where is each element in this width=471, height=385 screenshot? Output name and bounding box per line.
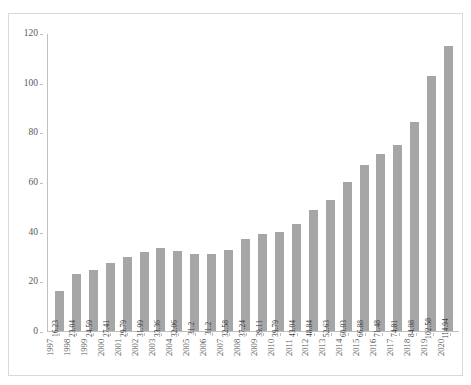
- x-axis-tick-label: 2009: [250, 339, 259, 356]
- bar[interactable]: 31.2: [190, 254, 199, 331]
- bar-slot: 84.08: [406, 34, 423, 331]
- x-axis-tick-label: 2006: [199, 339, 208, 356]
- bar[interactable]: 52.63: [326, 200, 335, 331]
- y-axis-tick-label: 60: [8, 178, 38, 188]
- x-axis-tick-label: 2005: [182, 339, 191, 356]
- x-axis-tick-label: 2010: [267, 339, 276, 356]
- x-axis-tick-mark: [263, 333, 264, 336]
- x-axis-tick-mark: [93, 333, 94, 336]
- x-axis-tick-mark: [76, 333, 77, 336]
- y-axis-tick-mark: [40, 332, 43, 333]
- bar-slot: 31.2: [186, 34, 203, 331]
- x-axis-tick-label: 2020: [437, 339, 446, 356]
- x-axis-tick-mark: [433, 333, 434, 336]
- x-axis-tick-mark: [127, 333, 128, 336]
- x-axis-tick-mark: [178, 333, 179, 336]
- bar[interactable]: 60.03: [343, 182, 352, 331]
- x-axis-tick-label: 2002: [131, 339, 140, 356]
- y-axis-tick-label: 100: [8, 79, 38, 89]
- x-axis-tick-label: 2001: [114, 339, 123, 356]
- bar[interactable]: 31.99: [140, 252, 149, 331]
- bar[interactable]: 102.58: [427, 76, 436, 331]
- y-axis-tick-mark: [40, 34, 43, 35]
- bar[interactable]: 31.2: [207, 254, 216, 331]
- x-axis-tick-label: 1999: [80, 339, 89, 356]
- x-axis-tick-mark: [382, 333, 383, 336]
- bar-slot: 71.48: [373, 34, 390, 331]
- bar[interactable]: 37.24: [241, 239, 250, 331]
- bar[interactable]: 48.84: [309, 210, 318, 331]
- bar[interactable]: 39.11: [258, 234, 267, 331]
- bar-slot: 32.06: [169, 34, 186, 331]
- x-axis-tick-label: 2004: [165, 339, 174, 356]
- bar[interactable]: 84.08: [410, 122, 419, 331]
- y-axis-tick-label: 20: [8, 278, 38, 288]
- bar[interactable]: 16.23: [55, 291, 64, 331]
- bar[interactable]: 24.59: [89, 270, 98, 331]
- x-axis-tick-label: 2011: [284, 339, 293, 356]
- bar[interactable]: 32.06: [173, 251, 182, 331]
- bar[interactable]: 74.81: [393, 145, 402, 331]
- y-axis-tick-mark: [40, 233, 43, 234]
- x-axis-tick-label: 2000: [97, 339, 106, 356]
- bar[interactable]: 32.58: [224, 250, 233, 331]
- bar-slot: 33.36: [153, 34, 170, 331]
- x-axis-tick-label: 2015: [352, 339, 361, 356]
- bar[interactable]: 39.79: [275, 232, 284, 331]
- bar-slot: 23.04: [68, 34, 85, 331]
- x-axis-tick-label: 2014: [335, 339, 344, 356]
- bar[interactable]: 29.79: [123, 257, 132, 331]
- x-axis-tick-label: 1998: [63, 339, 72, 356]
- bar-slot: 27.41: [102, 34, 119, 331]
- bar-slot: 66.88: [356, 34, 373, 331]
- bar-slot: 29.79: [119, 34, 136, 331]
- bar-slot: 74.81: [389, 34, 406, 331]
- x-axis: 1997199819992000200120022003200420052006…: [48, 333, 460, 373]
- bar[interactable]: 71.48: [376, 154, 385, 332]
- x-axis-tick-label: 2018: [403, 339, 412, 356]
- x-axis-tick-label: 1997: [46, 339, 55, 356]
- plot-area: 16.2323.0424.5927.4129.7931.9933.3632.06…: [47, 34, 459, 332]
- bar-slot: 24.59: [85, 34, 102, 331]
- x-axis-tick-label: 2003: [148, 339, 157, 356]
- x-axis-tick-label: 2012: [301, 339, 310, 356]
- x-axis-tick-mark: [416, 333, 417, 336]
- bar-slot: 16.23: [51, 34, 68, 331]
- bar[interactable]: 27.41: [106, 263, 115, 331]
- x-axis-tick-mark: [297, 333, 298, 336]
- y-axis-tick-label: 40: [8, 228, 38, 238]
- bar-slot: 48.84: [305, 34, 322, 331]
- bar[interactable]: 33.36: [156, 248, 165, 331]
- chart-frame: 020406080100120 16.2323.0424.5927.4129.7…: [8, 13, 463, 376]
- x-axis-tick-label: 2008: [233, 339, 242, 356]
- x-axis-tick-mark: [246, 333, 247, 336]
- bar-slot: 31.99: [136, 34, 153, 331]
- x-axis-tick-mark: [450, 333, 451, 336]
- screenshot-root: 020406080100120 16.2323.0424.5927.4129.7…: [0, 0, 471, 385]
- x-axis-tick-mark: [331, 333, 332, 336]
- y-axis-tick-mark: [40, 282, 43, 283]
- x-axis-tick-mark: [110, 333, 111, 336]
- bar[interactable]: 23.04: [72, 274, 81, 331]
- x-axis-tick-mark: [59, 333, 60, 336]
- bar[interactable]: 43.04: [292, 224, 301, 331]
- x-axis-tick-mark: [314, 333, 315, 336]
- bar[interactable]: 66.88: [360, 165, 369, 331]
- bar-slot: 60.03: [339, 34, 356, 331]
- x-axis-tick-mark: [348, 333, 349, 336]
- y-axis-tick-label: 80: [8, 129, 38, 139]
- y-axis: 020406080100120: [9, 34, 43, 332]
- y-axis-tick-mark: [40, 183, 43, 184]
- bar-slot: 31.2: [203, 34, 220, 331]
- x-axis-slot: 2020: [441, 333, 458, 373]
- y-axis-tick-mark: [40, 84, 43, 85]
- bar-slot: 43.04: [288, 34, 305, 331]
- x-axis-tick-mark: [195, 333, 196, 336]
- bar-slot: 114.94: [440, 34, 457, 331]
- bar[interactable]: 114.94: [444, 46, 453, 331]
- bar-slot: 102.58: [423, 34, 440, 331]
- x-axis-tick-mark: [161, 333, 162, 336]
- x-axis-tick-mark: [365, 333, 366, 336]
- x-axis-tick-mark: [399, 333, 400, 336]
- x-axis-tick-label: 2016: [369, 339, 378, 356]
